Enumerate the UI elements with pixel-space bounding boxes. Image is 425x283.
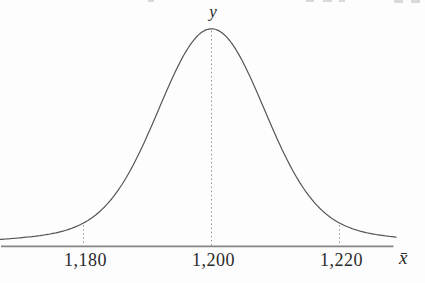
- x-tick-label-1220: 1,220: [320, 251, 363, 269]
- x-bar-axis-label: x̄: [399, 248, 407, 267]
- y-axis-label: y: [209, 3, 217, 21]
- x-tick-label-1200: 1,200: [192, 251, 235, 269]
- bell-curve-path: [0, 29, 396, 240]
- normal-distribution-figure: y 1,180 1,200 1,220 x̄: [0, 0, 425, 283]
- bell-curve-plot: [0, 0, 425, 283]
- x-tick-label-1180: 1,180: [64, 251, 107, 269]
